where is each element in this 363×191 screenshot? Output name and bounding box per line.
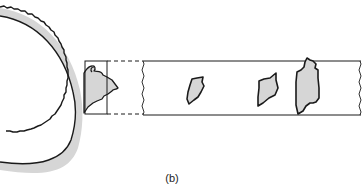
particle-1 xyxy=(187,77,204,104)
particle-3 xyxy=(296,58,319,114)
particle-2 xyxy=(258,73,278,106)
expanded-strip xyxy=(142,61,361,115)
diagram-figure xyxy=(0,0,363,191)
figure-caption: (b) xyxy=(158,172,186,184)
magnified-box xyxy=(84,61,118,114)
ring-section xyxy=(0,6,82,173)
